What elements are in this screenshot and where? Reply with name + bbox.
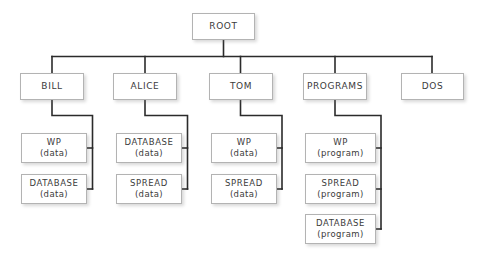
node-label: BILL <box>41 81 62 92</box>
node-label: DATABASE <box>29 178 78 189</box>
node-sublabel: (data) <box>230 148 258 159</box>
node-alice-spread-data[interactable]: SPREAD (data) <box>116 174 182 204</box>
node-programs-database-program[interactable]: DATABASE (program) <box>305 214 376 244</box>
node-sublabel: (program) <box>317 229 364 240</box>
directory-tree-diagram: ROOT BILL ALICE TOM PROGRAMS DOS WP (dat… <box>0 0 482 266</box>
node-sublabel: (data) <box>230 189 258 200</box>
node-tom-spread-data[interactable]: SPREAD (data) <box>211 174 277 204</box>
node-tom[interactable]: TOM <box>209 73 273 100</box>
node-bill[interactable]: BILL <box>20 73 84 100</box>
node-label: SPREAD <box>130 178 168 189</box>
node-dos[interactable]: DOS <box>401 73 464 100</box>
node-label: DATABASE <box>316 218 365 229</box>
node-bill-wp-data[interactable]: WP (data) <box>21 133 87 163</box>
node-sublabel: (data) <box>135 148 163 159</box>
node-label: PROGRAMS <box>307 81 363 92</box>
node-sublabel: (data) <box>40 148 68 159</box>
node-sublabel: (program) <box>317 189 364 200</box>
node-label: WP <box>47 137 62 148</box>
node-label: SPREAD <box>322 178 360 189</box>
node-sublabel: (data) <box>135 189 163 200</box>
node-label: SPREAD <box>225 178 263 189</box>
node-programs-spread-program[interactable]: SPREAD (program) <box>305 174 376 204</box>
node-programs-wp-program[interactable]: WP (program) <box>305 133 376 163</box>
node-label: DOS <box>422 81 444 92</box>
node-label: DATABASE <box>124 137 173 148</box>
node-label: WP <box>333 137 348 148</box>
node-bill-database-data[interactable]: DATABASE (data) <box>21 174 87 204</box>
wire-spine-programs <box>335 100 381 229</box>
node-programs[interactable]: PROGRAMS <box>303 73 367 100</box>
node-tom-wp-data[interactable]: WP (data) <box>211 133 277 163</box>
node-root[interactable]: ROOT <box>192 13 255 40</box>
node-label: ROOT <box>209 21 237 32</box>
node-sublabel: (data) <box>40 189 68 200</box>
node-label: ALICE <box>131 81 160 92</box>
node-label: TOM <box>230 81 252 92</box>
node-sublabel: (program) <box>317 148 364 159</box>
node-alice[interactable]: ALICE <box>113 73 177 100</box>
node-label: WP <box>237 137 252 148</box>
node-alice-database-data[interactable]: DATABASE (data) <box>116 133 182 163</box>
